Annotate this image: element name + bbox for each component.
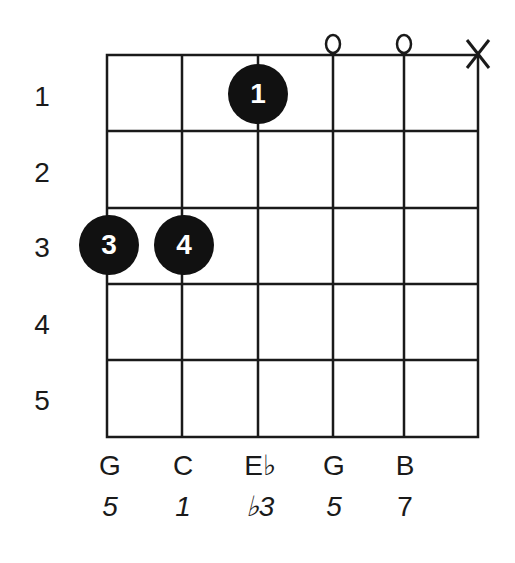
interval-label: 5 (309, 492, 359, 522)
finger-label: 4 (164, 229, 204, 261)
note-name: G (309, 451, 359, 481)
fret-number: 4 (27, 310, 57, 340)
finger-label: 1 (238, 78, 278, 110)
fret-number: 3 (27, 233, 57, 263)
interval-label: 1 (158, 492, 208, 522)
fret-number: 2 (27, 158, 57, 188)
interval-label: 7 (380, 492, 430, 522)
note-name: C (158, 451, 208, 481)
open-string-markers (326, 35, 411, 53)
note-name: B (380, 451, 430, 481)
interval-label: ♭3 (235, 492, 285, 522)
fret-number: 1 (27, 82, 57, 112)
chord-diagram: 1 3 4 1 2 3 4 5 G C E♭ G B 5 1 ♭3 5 7 (0, 0, 515, 563)
finger-label: 3 (89, 229, 129, 261)
note-name: E♭ (235, 451, 285, 481)
open-string-icon (326, 35, 340, 53)
interval-label: 5 (85, 492, 135, 522)
note-name: G (85, 451, 135, 481)
fret-number: 5 (27, 386, 57, 416)
open-string-icon (397, 35, 411, 53)
